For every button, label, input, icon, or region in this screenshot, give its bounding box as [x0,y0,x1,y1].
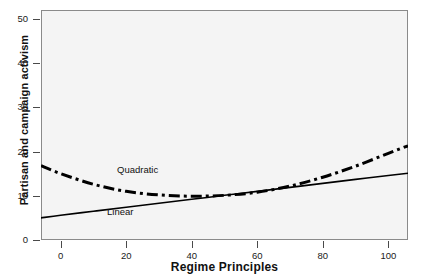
y-tick-label: 50 [2,13,28,24]
y-tick-mark [33,240,40,241]
x-axis-title: Regime Principles [41,260,408,274]
y-tick-mark [33,63,40,64]
x-tick-mark [192,241,193,248]
y-tick-mark [33,196,40,197]
series-label-quadratic: Quadratic [117,164,158,175]
y-tick-label: 0 [2,234,28,245]
series-label-linear: Linear [107,206,133,217]
series-line-linear [41,173,408,218]
y-tick-label: 20 [2,146,28,157]
y-axis-title: Partisan and campaign activism [18,0,30,240]
plot-area [41,10,408,240]
y-tick-mark [33,107,40,108]
y-tick-label: 10 [2,190,28,201]
series-line-quadratic [41,146,408,196]
y-tick-mark [33,152,40,153]
x-tick-mark [61,241,62,248]
x-tick-mark [126,241,127,248]
x-tick-mark [257,241,258,248]
chart-figure: Partisan and campaign activism 010203040… [0,0,422,280]
x-tick-mark [323,241,324,248]
x-tick-mark [388,241,389,248]
y-tick-label: 40 [2,57,28,68]
y-tick-label: 30 [2,101,28,112]
y-tick-mark [33,19,40,20]
